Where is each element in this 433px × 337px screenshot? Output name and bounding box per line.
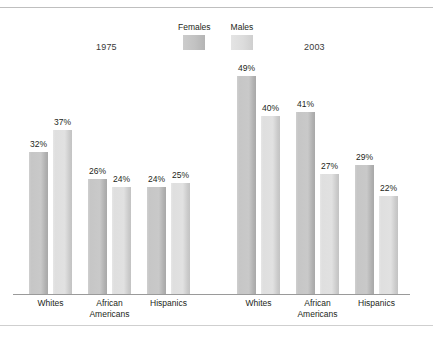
bar-value-label: 26% [89,166,106,176]
category-label-2003-african-americans: African Americans [297,298,337,319]
bar-1975-african-americans-females: 26% [88,179,107,294]
bar-1975-whites-females: 32% [29,152,48,294]
bar-value-label: 37% [54,117,71,127]
category-label-1975-african-americans: African Americans [89,298,129,319]
bar-2003-hispanics-males: 22% [379,196,398,294]
bar-value-label: 29% [356,152,373,162]
bar-2003-whites-males: 40% [261,116,280,294]
bar-value-label: 22% [380,183,397,193]
bar-2003-african-americans-males: 27% [320,174,339,294]
bar-value-label: 41% [297,99,314,109]
category-label-2003-hispanics: Hispanics [358,298,395,309]
bar-value-label: 27% [321,161,338,171]
bar-value-label: 24% [113,174,130,184]
chart-figure: 1975 2003 Females Males 32%37%26%24%24%2… [0,0,433,337]
bar-2003-african-americans-females: 41% [296,112,315,294]
x-axis-baseline [13,294,410,295]
bar-2003-whites-females: 49% [237,76,256,294]
bar-value-label: 49% [238,63,255,73]
bar-value-label: 40% [262,103,279,113]
bar-1975-whites-males: 37% [53,130,72,294]
bar-1975-hispanics-males: 25% [171,183,190,294]
category-label-1975-whites: Whites [38,298,64,309]
plot-area: 32%37%26%24%24%25%49%40%41%27%29%22% Whi… [0,0,433,337]
bar-1975-african-americans-males: 24% [112,187,131,294]
bar-1975-hispanics-females: 24% [147,187,166,294]
bar-2003-hispanics-females: 29% [355,165,374,294]
bar-value-label: 25% [172,170,189,180]
bar-value-label: 32% [30,139,47,149]
category-label-2003-whites: Whites [246,298,272,309]
bar-value-label: 24% [148,174,165,184]
category-label-1975-hispanics: Hispanics [150,298,187,309]
